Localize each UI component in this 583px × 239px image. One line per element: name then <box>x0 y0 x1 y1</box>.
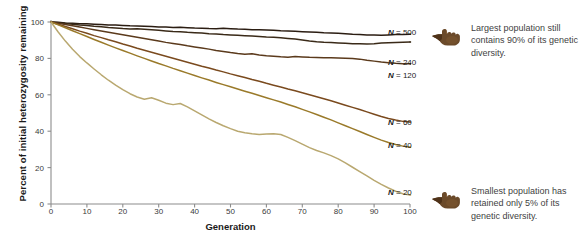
axes <box>48 20 411 208</box>
callout-smallest-population: Smallest population has retained only 5%… <box>471 185 583 222</box>
series-line-60 <box>51 22 410 122</box>
series-label-n40: N = 40 <box>388 141 412 150</box>
pointing-hand-icon <box>430 188 464 210</box>
series-line-500 <box>51 22 410 35</box>
data-series-group <box>51 22 411 195</box>
series-label-n240: N = 240 <box>388 58 416 67</box>
pointing-hand-icon <box>430 25 464 47</box>
callout-largest-population: Largest population still contains 90% of… <box>471 22 583 59</box>
heterozygosity-decay-figure: Percent of initial heterozygosity remain… <box>0 0 583 239</box>
series-label-n60: N = 60 <box>388 118 412 127</box>
series-label-n500: N = 500 <box>388 28 416 37</box>
series-label-n20: N = 20 <box>388 188 412 197</box>
series-label-n120: N = 120 <box>388 71 416 80</box>
